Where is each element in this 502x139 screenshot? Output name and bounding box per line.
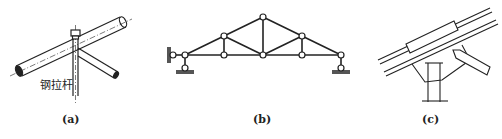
- figure-b: (b): [160, 0, 360, 139]
- caption-c: (c): [422, 113, 439, 126]
- caption-b: (b): [253, 113, 271, 126]
- figure-a: 钢拉杆 (a): [0, 0, 140, 139]
- tie-rod-label: 钢拉杆: [40, 76, 73, 92]
- truss-joints: [170, 14, 344, 71]
- figure-c: (c): [370, 0, 502, 139]
- caption-a: (a): [62, 113, 80, 126]
